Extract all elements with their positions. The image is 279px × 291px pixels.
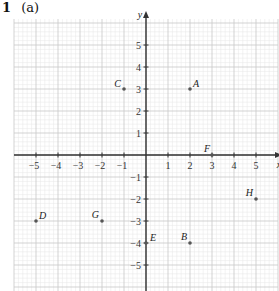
- point-label: F: [203, 143, 211, 154]
- x-tick-label: 2: [188, 160, 193, 171]
- y-axis-arrow-icon: [143, 11, 149, 18]
- point-label: E: [149, 232, 156, 243]
- y-tick-label: 4: [136, 62, 141, 73]
- x-tick-label: 5: [254, 160, 259, 171]
- x-tick-label: 3: [210, 160, 215, 171]
- point-marker-icon: [210, 153, 214, 157]
- point-label: H: [245, 187, 254, 198]
- point-marker-icon: [188, 87, 192, 91]
- y-tick-label: 1: [136, 128, 141, 139]
- x-tick-label: −4: [51, 160, 62, 171]
- y-tick-label: 2: [136, 106, 141, 117]
- point-label: G: [92, 209, 99, 220]
- point-marker-icon: [254, 197, 258, 201]
- y-tick-label: 3: [136, 84, 141, 95]
- x-axis-label: x: [276, 159, 279, 170]
- x-tick-label: −2: [95, 160, 106, 171]
- coordinate-grid: xy −5−4−3−2−112345−5−4−3−2−112345 ABCDEF…: [0, 0, 279, 291]
- x-tick-label: −1: [117, 160, 128, 171]
- y-tick-label: −4: [130, 238, 141, 249]
- point-marker-icon: [188, 241, 192, 245]
- point-label: C: [114, 78, 121, 89]
- point-marker-icon: [100, 219, 104, 223]
- point-marker-icon: [34, 219, 38, 223]
- y-axis-label: y: [137, 9, 143, 20]
- point-label: B: [181, 231, 187, 242]
- x-tick-label: −3: [73, 160, 84, 171]
- y-tick-label: −1: [130, 172, 141, 183]
- y-tick-label: 5: [136, 40, 141, 51]
- point-marker-icon: [122, 87, 126, 91]
- x-tick-label: 4: [232, 160, 237, 171]
- y-tick-label: −2: [130, 194, 141, 205]
- point-label: D: [38, 210, 47, 221]
- point-marker-icon: [144, 241, 148, 245]
- x-tick-label: −5: [29, 160, 40, 171]
- point-label: A: [192, 78, 200, 89]
- y-tick-label: −5: [130, 260, 141, 271]
- y-tick-label: −3: [130, 216, 141, 227]
- x-tick-label: 1: [166, 160, 171, 171]
